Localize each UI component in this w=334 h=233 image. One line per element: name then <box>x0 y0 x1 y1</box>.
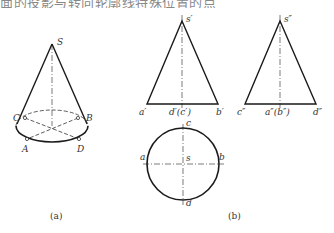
label-a-prime: a′ <box>139 107 146 117</box>
front-view: s′ a′ d′(c′) b′ <box>139 14 224 117</box>
cone-projection-diagram: S C B A D (a) s′ a′ d′(c′) b′ s″ c″ a″(b… <box>0 0 334 233</box>
front-view-triangle <box>147 21 218 104</box>
label-D: D <box>76 144 84 154</box>
point-B <box>76 116 79 119</box>
caption-a: (a) <box>50 211 62 221</box>
caption-b: (b) <box>228 211 241 221</box>
label-d: d <box>186 198 192 208</box>
label-d-double-prime: d″ <box>313 107 323 117</box>
label-s-prime: s′ <box>186 14 193 24</box>
label-a: a <box>140 152 145 162</box>
point-C <box>23 116 26 119</box>
label-c: c <box>186 118 191 128</box>
label-S: S <box>57 37 63 47</box>
side-view: s″ c″ a″(b″) d″ <box>237 14 323 117</box>
figure-a-cone: S C B A D <box>13 37 93 154</box>
label-s: s <box>186 153 191 163</box>
label-B: B <box>85 113 93 123</box>
point-A <box>25 137 28 140</box>
label-d-prime-c-prime: d′(c′) <box>169 107 191 117</box>
label-a-double-prime-b-double-prime: a″(b″) <box>265 107 290 117</box>
top-view: c a s b d <box>140 118 225 208</box>
point-D <box>77 137 80 140</box>
label-C: C <box>13 113 20 123</box>
side-view-triangle <box>245 21 316 104</box>
label-A: A <box>21 144 29 154</box>
label-b-prime: b′ <box>216 107 224 117</box>
cone-right-contour <box>52 44 87 124</box>
label-c-double-prime: c″ <box>237 107 246 117</box>
label-s-double-prime: s″ <box>284 14 293 24</box>
label-b: b <box>219 152 225 162</box>
